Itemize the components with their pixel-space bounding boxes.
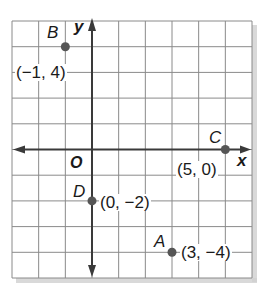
point-a-marker <box>168 248 177 257</box>
shadow-right <box>252 25 257 282</box>
point-c-coordinates: (5, 0) <box>176 161 218 178</box>
coordinate-plane <box>0 0 274 300</box>
y-axis-label: y <box>73 18 84 35</box>
point-c-marker <box>221 145 230 154</box>
point-a-coordinates: (3, −4) <box>180 244 232 261</box>
point-c-name: C <box>208 129 222 146</box>
point-d-marker <box>88 196 97 205</box>
point-b-marker <box>61 42 70 51</box>
point-d-coordinates: (0, −2) <box>99 194 151 211</box>
x-axis-label: x <box>236 152 247 169</box>
origin-label: O <box>69 155 83 171</box>
point-b-name: B <box>46 24 59 41</box>
point-d-name: D <box>72 183 86 200</box>
shadow-bottom <box>16 278 257 283</box>
point-a-name: A <box>153 233 166 250</box>
point-b-coordinates: (−1, 4) <box>15 64 67 81</box>
